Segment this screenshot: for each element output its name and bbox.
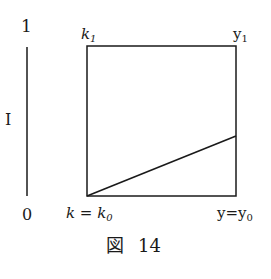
label-base: y=y	[217, 204, 247, 222]
box-outline	[87, 46, 236, 196]
caption-number: 14	[138, 235, 161, 256]
caption-glyph: 図	[106, 235, 124, 256]
label-base: k = k	[66, 204, 106, 222]
label-sub: 1	[241, 33, 247, 44]
box-bottom-right-label: y=y0	[217, 206, 253, 223]
axis-mid-label: I	[5, 112, 11, 128]
diagonal-line	[87, 136, 236, 196]
axis-top-label: 1	[21, 18, 32, 35]
label-sub: 0	[106, 212, 112, 223]
label-sub: 1	[90, 33, 96, 44]
box-bottom-left-label: k = k0	[66, 206, 113, 223]
figure-caption: 図14	[106, 237, 161, 255]
box-top-right-label: y1	[233, 27, 248, 44]
label-sub: 0	[247, 212, 253, 223]
axis-bottom-label: 0	[22, 207, 32, 223]
label-base: k	[81, 25, 90, 43]
box-top-left-label: k1	[81, 27, 96, 44]
